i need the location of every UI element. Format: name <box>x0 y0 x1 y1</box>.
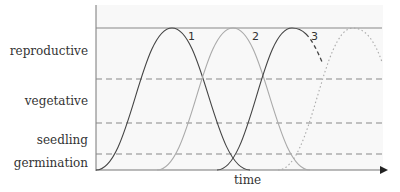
curve-label-3: 3 <box>311 30 318 43</box>
x-axis-arrow-icon <box>380 166 388 174</box>
curve-label-2: 2 <box>252 30 259 43</box>
x-label-time: time <box>234 173 261 187</box>
y-label-reproductive: reproductive <box>10 44 88 58</box>
y-label-germination: germination <box>14 156 89 170</box>
curve-label-1: 1 <box>188 30 195 43</box>
plant-life-cycle-diagram: reproductive vegetative seedling germina… <box>0 0 400 192</box>
y-label-seedling: seedling <box>37 133 88 147</box>
y-label-vegetative: vegetative <box>24 94 88 108</box>
